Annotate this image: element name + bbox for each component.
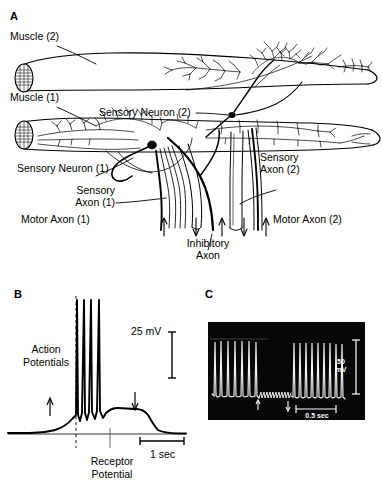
panel-label-c: C (205, 288, 213, 300)
panel-b-stretch-offset-arrow (132, 392, 138, 410)
label-panel-b-voltage-scale: 25 mV (131, 326, 161, 338)
panel-b-trace-svg (0, 282, 200, 462)
panel-b-chart (0, 282, 200, 462)
label-motor-axon-1: Motor Axon (1) (21, 214, 90, 226)
muscle-1-body (22, 118, 380, 152)
panel-b-stretch-onset-arrow (47, 398, 53, 416)
label-sensory-neuron-1: Sensory Neuron (1) (17, 163, 109, 175)
muscle-receptor-organ-drawing (0, 18, 382, 268)
label-receptor-potential: Receptor Potential (78, 455, 146, 481)
inhibitory-axon-branch (200, 130, 219, 176)
label-panel-b-time-scale: 1 sec (150, 449, 175, 461)
label-motor-axon-2: Motor Axon (2) (273, 214, 342, 226)
label-inhibitory-axon: Inhibitory Axon (155, 238, 261, 261)
leader-muscle-2 (57, 46, 96, 64)
sensory-axon-2-inner (233, 134, 234, 225)
panel-b-voltage-scale-bar (168, 332, 176, 378)
label-panel-c-time-scale: 0.5 sec (296, 412, 338, 420)
motor-axon-2-bundle (248, 128, 262, 230)
label-panel-c-voltage-value: 50 (331, 358, 351, 366)
sensory-axon-1-hollow (179, 144, 202, 229)
arrow-up-inhibitory (219, 218, 225, 236)
muscle-1-cut-end (15, 121, 33, 149)
leader-sensory-neuron-2 (196, 113, 228, 115)
label-muscle-1: Muscle (1) (10, 92, 59, 104)
muscle-2-body (22, 53, 377, 91)
label-sensory-axon-1: Sensory Axon (1) (25, 185, 115, 208)
label-action-potentials: Action Potentials (12, 343, 80, 369)
panel-a-illustration (0, 18, 382, 268)
label-panel-c-voltage-unit: mV (331, 366, 351, 374)
motor-axon-1 (156, 151, 162, 230)
sensory-neuron-2-dendrites (164, 56, 240, 81)
axon-direction-arrows (161, 218, 269, 236)
label-sensory-neuron-2: Sensory Neuron (2) (99, 107, 191, 119)
sensory-axon-2-hollow (230, 131, 243, 230)
figure-root: A (0, 0, 382, 500)
arrow-down-sensory-axon-1 (193, 218, 199, 236)
leader-muscle-1 (57, 107, 96, 126)
label-muscle-2: Muscle (2) (10, 31, 59, 43)
panel-c-oscilloscope-photo: 50 mV 0.5 sec (208, 322, 365, 420)
leader-sensory-axon-1 (116, 198, 166, 203)
arrow-up-motor-axon-2 (263, 218, 269, 236)
panel-b-time-scale-bar (140, 437, 184, 445)
sensory-neuron-1-soma (147, 141, 157, 150)
muscle-2-cut-end (15, 64, 33, 92)
label-sensory-axon-2: Sensory Axon (2) (260, 152, 300, 175)
